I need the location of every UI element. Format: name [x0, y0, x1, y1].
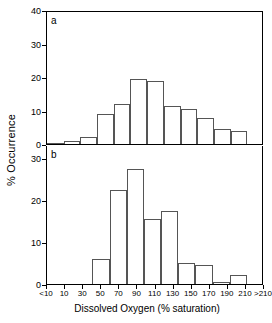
y-tick-mark: [42, 45, 46, 46]
bar: [164, 106, 181, 144]
x-tick-label: 50: [96, 289, 105, 298]
x-tick-label: 190: [220, 289, 233, 298]
bar: [213, 282, 230, 285]
panel-a-bars: [47, 12, 262, 144]
x-tick-label: 110: [148, 289, 161, 298]
bar: [231, 131, 248, 144]
y-tick-label: 20: [31, 196, 41, 206]
x-tick-label: 10: [60, 289, 69, 298]
bar: [195, 265, 212, 284]
y-tick-label: 30: [31, 40, 41, 50]
x-tick-label: >210: [254, 289, 272, 298]
y-tick-label: 0: [36, 140, 41, 150]
panel-b-bars: [47, 146, 262, 284]
y-tick-label: 30: [31, 154, 41, 164]
bar: [47, 143, 64, 144]
y-tick-mark: [42, 78, 46, 79]
x-tick-label: 210: [238, 289, 251, 298]
bar: [92, 259, 109, 284]
bar: [230, 275, 247, 284]
bar: [181, 109, 198, 144]
y-axis-label: % Occurrence: [5, 114, 17, 186]
y-tick-label: 20: [31, 73, 41, 83]
x-tick-label: 30: [78, 289, 87, 298]
bar: [147, 81, 164, 144]
y-tick-label: 40: [31, 6, 41, 16]
panel-b-frame: b: [46, 146, 263, 285]
panel-a-frame: a: [46, 11, 263, 145]
bar: [197, 118, 214, 144]
bar: [80, 137, 97, 144]
x-tick-label: <10: [39, 289, 53, 298]
bar: [214, 129, 231, 145]
y-tick-mark: [42, 201, 46, 202]
x-tick-label: 90: [132, 289, 141, 298]
x-tick-label: 70: [114, 289, 123, 298]
bar: [130, 79, 147, 144]
bar: [127, 169, 144, 284]
figure-root: % Occurrence a 010203040 b 0102030 <1010…: [0, 0, 272, 323]
y-tick-mark: [42, 11, 46, 12]
bar: [64, 141, 81, 144]
panel-b: b 0102030 <10103050709011013015017019021…: [46, 146, 263, 285]
bar: [161, 211, 178, 284]
panel-a: a 010203040: [46, 11, 263, 145]
x-tick-label: 170: [202, 289, 215, 298]
y-tick-mark: [42, 243, 46, 244]
x-tick-label: 130: [166, 289, 179, 298]
bar: [114, 104, 131, 144]
bar: [178, 263, 195, 284]
y-tick-label: 10: [31, 238, 41, 248]
y-tick-mark: [42, 112, 46, 113]
bar: [144, 219, 161, 284]
y-tick-label: 10: [31, 107, 41, 117]
x-tick-label: 150: [184, 289, 197, 298]
y-axis-label-container: % Occurrence: [0, 0, 22, 300]
bar: [110, 190, 127, 284]
y-tick-mark: [42, 159, 46, 160]
x-axis-title: Dissolved Oxygen (% saturation): [22, 303, 272, 314]
bar: [97, 114, 114, 144]
